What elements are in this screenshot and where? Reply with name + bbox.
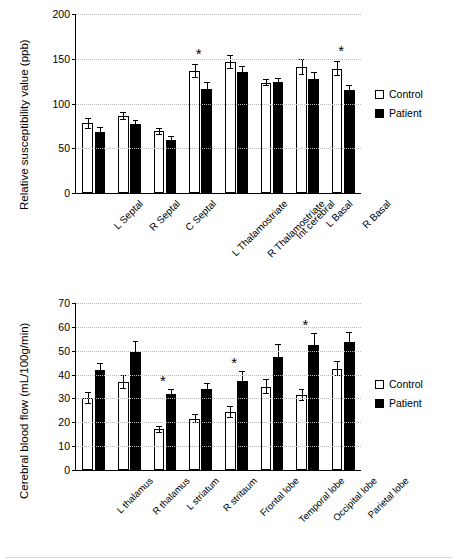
bar-control [332, 369, 343, 470]
bar-control [82, 398, 93, 470]
significance-marker: * [160, 373, 166, 388]
gridline [76, 303, 361, 304]
error-bar [275, 344, 281, 370]
x-axis-tick-label: L thalamus [114, 475, 154, 515]
bar-patient [130, 124, 141, 193]
bar-group [219, 303, 255, 470]
bar-patient [237, 381, 248, 470]
plot-area-bottom: 010203040506070 [75, 303, 361, 471]
y-axis-tick [72, 303, 76, 304]
legend-bottom: Control Patient [375, 378, 423, 416]
y-axis-tick-label: 30 [58, 393, 70, 403]
legend-swatch-patient [375, 109, 384, 118]
y-axis-tick-label: 50 [58, 143, 70, 153]
legend-label-control: Control [389, 88, 423, 100]
y-axis-tick [72, 104, 76, 105]
bar-patient [201, 389, 212, 470]
bar-control [332, 69, 343, 193]
bar-patient [166, 394, 177, 470]
significance-marker: * [196, 46, 202, 61]
y-axis-tick-label: 60 [58, 322, 70, 332]
significance-marker: * [338, 43, 344, 58]
error-bar [133, 341, 139, 362]
gridline [76, 104, 361, 105]
y-axis-tick [72, 327, 76, 328]
bar-group [76, 303, 112, 470]
y-axis-tick [72, 446, 76, 447]
error-bar [275, 78, 281, 87]
error-bar [85, 118, 91, 129]
bar-control [225, 412, 236, 470]
bar-control [118, 382, 129, 470]
y-axis-tick-label: 50 [58, 346, 70, 356]
error-bar [346, 85, 352, 96]
y-axis-tick-label: 40 [58, 370, 70, 380]
x-axis-tick-label: R thalamus [150, 475, 192, 517]
error-bar [204, 82, 210, 96]
x-axis-tick-label: Frontal lobe [258, 475, 301, 518]
bar-control [189, 419, 200, 470]
bar-control [296, 395, 307, 470]
error-bar [120, 112, 126, 119]
error-bar [97, 127, 103, 138]
bar-control [261, 83, 272, 193]
bar-patient [201, 89, 212, 193]
error-bar [204, 383, 210, 395]
error-bar [263, 79, 269, 86]
bar-patient [237, 72, 248, 193]
y-axis-tick-label: 200 [52, 9, 70, 19]
gridline [76, 422, 361, 423]
bar-group [112, 303, 148, 470]
legend-item-control: Control [375, 378, 423, 390]
y-axis-tick [72, 59, 76, 60]
legend-label-control: Control [389, 378, 423, 390]
gridline [76, 375, 361, 376]
bar-control [82, 123, 93, 193]
gridline [76, 148, 361, 149]
bar-control [189, 71, 200, 193]
gridline [76, 14, 361, 15]
y-axis-tick-label: 0 [64, 188, 70, 198]
bar-control [154, 131, 165, 193]
figure-container: Relative susceptibility value (ppb) 0501… [0, 0, 458, 559]
significance-marker: * [231, 355, 237, 370]
significance-marker: * [303, 317, 309, 332]
error-bar [334, 61, 340, 75]
legend-item-patient: Patient [375, 397, 423, 409]
y-axis-tick [72, 193, 76, 194]
y-axis-tick [72, 422, 76, 423]
x-axis-tick-label: L Septal [111, 198, 144, 231]
error-bar [311, 333, 317, 357]
bar-group [183, 303, 219, 470]
bar-patient [95, 370, 106, 470]
x-axis-tick-label: R Septal [148, 198, 183, 233]
gridline [76, 398, 361, 399]
gridline [76, 59, 361, 60]
bar-patient [344, 90, 355, 193]
x-axis-tick-label: R stritaum [220, 475, 258, 513]
legend-top: Control Patient [375, 88, 423, 126]
y-axis-tick [72, 470, 76, 471]
error-bar [227, 55, 233, 69]
y-axis-tick-label: 100 [52, 99, 70, 109]
y-axis-tick-label: 10 [58, 441, 70, 451]
error-bar [299, 59, 305, 75]
error-bar [192, 64, 198, 78]
bars-bottom [76, 303, 361, 470]
error-bar [168, 389, 174, 399]
error-bar [311, 72, 317, 86]
error-bar [156, 128, 162, 135]
legend-swatch-patient [375, 399, 384, 408]
y-axis-tick [72, 398, 76, 399]
gridline [76, 327, 361, 328]
bar-patient [308, 345, 319, 470]
error-bar [133, 120, 139, 129]
y-axis-tick [72, 375, 76, 376]
bar-control [154, 429, 165, 470]
error-bar [227, 406, 233, 418]
y-axis-tick-label: 0 [64, 465, 70, 475]
y-axis-tick [72, 14, 76, 15]
legend-swatch-control [375, 90, 384, 99]
legend-item-control: Control [375, 88, 423, 100]
plot-area-top: 050100150200 [75, 14, 361, 194]
